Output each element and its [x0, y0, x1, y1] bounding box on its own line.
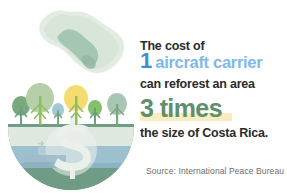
tree-3-icon: [52, 103, 64, 125]
headline-line-costa-rica: the size of Costa Rica.: [140, 123, 287, 139]
costa-rica-map-icon: [39, 11, 124, 74]
headline-three-times-row: 3 times: [140, 95, 287, 121]
infographic-card: The cost of 1aircraft carrier can refore…: [0, 0, 287, 196]
headline-line3-label: the size of Costa Rica.: [140, 126, 268, 140]
headline-line-the-cost-of: The cost of: [140, 36, 287, 51]
source-attribution: Source: International Peace Bureau: [146, 166, 284, 176]
reforestation-dome-icon: [0, 124, 142, 196]
headline-line-can-reforest: can reforest an area: [140, 74, 287, 90]
headline-text-block: The cost of 1aircraft carrier can refore…: [140, 36, 287, 186]
illustration-panel: [0, 0, 142, 196]
tree-5-icon: [88, 100, 102, 125]
tree-4-icon: [64, 85, 88, 125]
emphasis-phrase-three-times: 3 times: [140, 94, 222, 122]
emphasis-number-one: 1: [140, 48, 152, 73]
emphasis-phrase-aircraft-carrier: aircraft carrier: [155, 53, 262, 71]
headline-line2-label: can reforest an area: [140, 77, 255, 91]
tree-2-icon: [26, 83, 54, 125]
tree-6-icon: [107, 93, 127, 125]
headline-aircraft-carrier-row: 1aircraft carrier: [140, 51, 287, 71]
